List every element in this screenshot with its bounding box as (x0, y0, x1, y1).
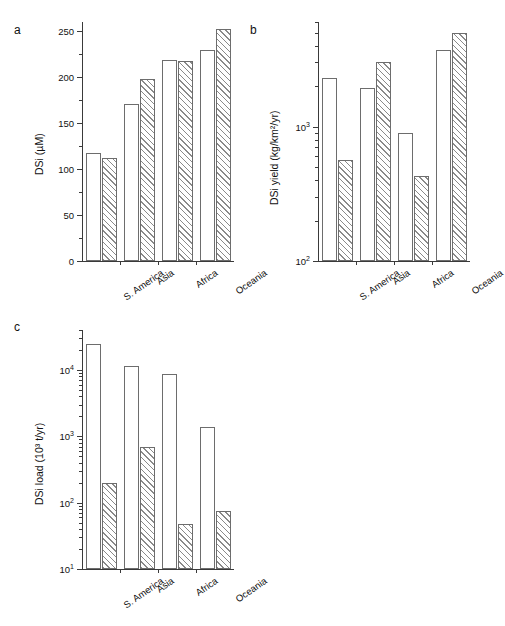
y-axis-tick-minor (79, 447, 82, 448)
y-axis-tick-minor (79, 376, 82, 377)
y-axis-tick-major (77, 503, 82, 504)
bar-open (124, 366, 139, 569)
x-axis-category-label: Oceania (233, 575, 268, 604)
y-axis-tick-minor (79, 549, 82, 550)
y-axis-tick-minor (79, 523, 82, 524)
x-axis-tick (120, 569, 121, 573)
y-axis-tick-label: 102 (42, 497, 74, 509)
y-axis-tick-minor (79, 385, 82, 386)
y-axis-tick-minor (79, 439, 82, 440)
y-axis-tick-label: 101 (42, 563, 74, 575)
bar-open (86, 344, 101, 569)
y-axis-tick-minor (79, 330, 82, 331)
y-axis-tick-minor (79, 529, 82, 530)
y-axis-tick-minor (79, 443, 82, 444)
bar-hatched (178, 524, 193, 569)
panel-c-plot-area: 101102103104S. AmericaAsiaAfricaOceania (82, 330, 234, 569)
y-axis-tick-minor (79, 513, 82, 514)
bar-open (200, 427, 215, 569)
x-axis-tick (158, 569, 159, 573)
x-axis-category-label: Africa (193, 575, 219, 598)
y-axis-tick-minor (79, 390, 82, 391)
y-axis-tick-minor (79, 338, 82, 339)
y-axis-tick-major (77, 436, 82, 437)
y-axis-tick-minor (79, 380, 82, 381)
y-axis-tick-minor (79, 471, 82, 472)
y-axis-tick-minor (79, 373, 82, 374)
y-axis-tick-minor (79, 451, 82, 452)
y-axis-tick-minor (79, 483, 82, 484)
y-axis-tick-minor (79, 416, 82, 417)
y-axis-tick-major (77, 370, 82, 371)
y-axis-tick-minor (79, 517, 82, 518)
y-axis-tick-major (77, 569, 82, 570)
bar-open (162, 374, 177, 569)
y-axis-tick-minor (79, 463, 82, 464)
y-axis-tick-minor (79, 506, 82, 507)
y-axis-tick-minor (79, 456, 82, 457)
y-axis-tick-minor (79, 509, 82, 510)
bar-hatched (216, 511, 231, 569)
y-axis-tick-label: 103 (42, 430, 74, 442)
y-axis-tick-minor (79, 350, 82, 351)
panel-c-letter: c (14, 320, 20, 334)
y-axis-line (82, 330, 83, 569)
y-axis-tick-minor (79, 537, 82, 538)
y-axis-tick-minor (79, 396, 82, 397)
y-axis-tick-minor (79, 405, 82, 406)
bar-hatched (102, 483, 117, 569)
x-axis-tick (196, 569, 197, 573)
bar-hatched (140, 447, 155, 569)
y-axis-tick-label: 104 (42, 364, 74, 376)
